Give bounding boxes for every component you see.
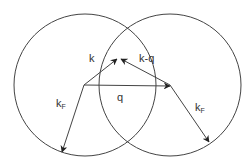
vector-label-k-minus-q: k-q — [139, 52, 154, 64]
vector-label-subscript: F — [201, 107, 205, 114]
vector-label-kF-right: kF — [195, 101, 205, 114]
vector-arrow-q — [84, 85, 170, 86]
vector-label-kF-left: kF — [56, 97, 66, 110]
fermi-sphere-diagram: kFkqk-qkF — [0, 0, 252, 166]
vector-label-q: q — [117, 91, 123, 103]
vector-label-k: k — [89, 52, 95, 64]
vector-label-subscript: F — [62, 103, 66, 110]
vector-arrow-kF-left — [62, 85, 84, 152]
